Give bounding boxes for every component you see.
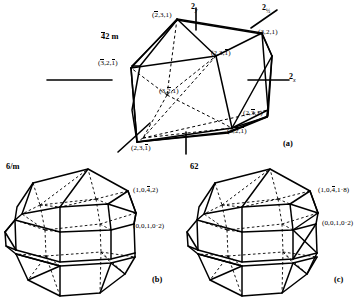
face-label-bottom-left: (2,3,1) — [131, 143, 151, 152]
figure-c-hexagonal-62: 62 (1,0,4,1·8) (0,0,1,0·2) (c) — [182, 158, 364, 304]
panel-id-b: (b) — [152, 276, 162, 284]
panel-id-a: (a) — [283, 140, 293, 148]
face-label-prism-c: (0,0,1,0·2) — [322, 220, 353, 227]
two-fold-y-axis-label: 2y — [191, 3, 198, 13]
face-label-left: (3,2,1) — [98, 58, 118, 67]
face-label-right-upper: (2,3,1) — [211, 48, 231, 57]
figure-b-hexagonal-6-over-m: 6/m (1,0,4,2) (0,0,1,0·2) (b) — [0, 158, 182, 304]
face-label-prism-b: (0,0,1,0·2) — [133, 223, 164, 230]
figure-a-drawing — [0, 0, 364, 160]
face-label-bottom-right: (3,2,1) — [227, 126, 247, 135]
face-label-top: (2,3,1) — [152, 10, 172, 19]
face-label-right-lower: (2,3,1) — [243, 108, 263, 117]
point-group-symbol-c: 62 — [190, 163, 198, 171]
face-label-pyramid-b: (1,0,4,2) — [133, 185, 158, 194]
panel-id-c: (c) — [334, 276, 343, 284]
two-fold-half-axis-label: 2½ — [262, 4, 270, 14]
figure-a-tetragonal-scalenohedron: (2,3,1) 2y 2½ (3,2,1) (2,3,1) (3,2,1) 42… — [0, 0, 364, 160]
face-label-upper-right: (3,2,1) — [258, 29, 278, 36]
face-label-pyramid-c: (1,0,4,1·8) — [318, 185, 349, 194]
face-label-center: (3,2,1) — [159, 86, 179, 95]
point-group-symbol-b: 6/m — [6, 163, 20, 171]
point-group-symbol-a: 42 m — [101, 31, 118, 41]
two-fold-x-axis-label: 2x — [289, 73, 296, 83]
